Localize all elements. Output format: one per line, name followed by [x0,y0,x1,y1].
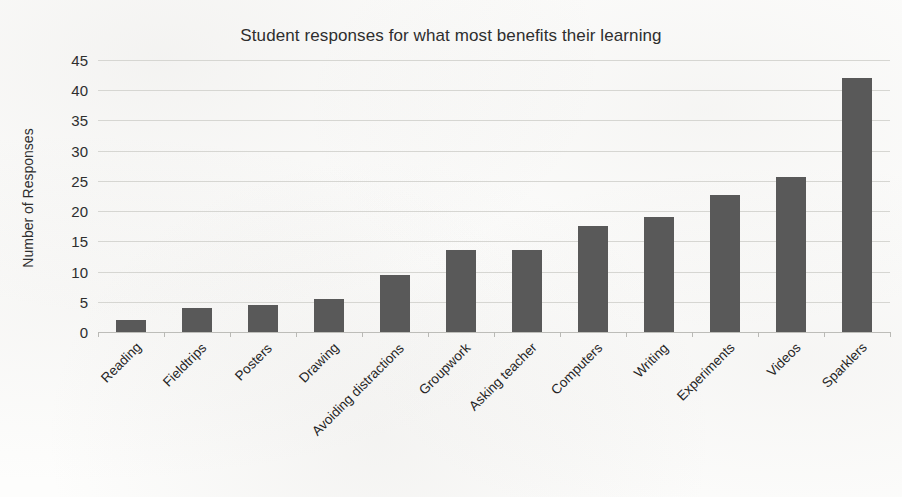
y-tick-label: 0 [52,324,88,341]
chart-title: Student responses for what most benefits… [0,26,902,46]
bar [182,308,212,332]
x-tick-mark [230,332,231,337]
y-tick-label: 10 [52,263,88,280]
bar [314,299,344,332]
x-tick-mark [692,332,693,337]
y-tick-label: 20 [52,203,88,220]
y-tick-label: 40 [52,82,88,99]
x-tick-mark [890,332,891,337]
x-tick-mark [560,332,561,337]
x-tick-mark [824,332,825,337]
bar [248,305,278,332]
x-tick-label: Asking teacher [466,340,540,414]
y-tick-label: 35 [52,112,88,129]
bar-chart-figure: Student responses for what most benefits… [0,0,902,497]
bar [710,195,740,332]
bars-group [98,60,890,332]
bar [776,177,806,332]
bar [644,217,674,332]
x-tick-mark [758,332,759,337]
x-tick-mark [98,332,99,337]
bar [512,250,542,332]
x-tick-mark [494,332,495,337]
bar [578,226,608,332]
x-tick-mark [164,332,165,337]
x-tick-mark [626,332,627,337]
bar [380,275,410,332]
y-tick-label: 15 [52,233,88,250]
x-tick-mark [428,332,429,337]
bar [842,78,872,332]
y-tick-label: 45 [52,52,88,69]
bar [446,250,476,332]
x-tick-mark [296,332,297,337]
y-tick-label: 5 [52,293,88,310]
bar [116,320,146,332]
x-tick-mark [362,332,363,337]
y-tick-label: 25 [52,172,88,189]
y-tick-label: 30 [52,142,88,159]
